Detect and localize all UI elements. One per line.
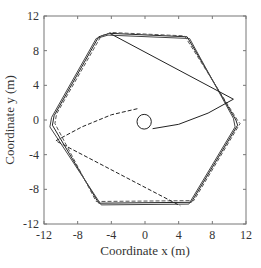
hexagon-path-solid [52,33,237,203]
x-tick-label: -8 [73,228,83,242]
initial-circle [137,114,151,129]
y-tick-label: -12 [23,217,39,231]
x-tick-label: 4 [176,228,182,242]
y-tick-label: -4 [29,148,39,162]
y-tick-label: -8 [29,182,39,196]
y-tick-label: 0 [33,113,39,127]
approach-solid [110,33,234,128]
hexagon-path-offset-2 [55,33,240,202]
approach-dashed [56,109,181,206]
x-tick-label: 8 [209,228,215,242]
x-tick-label: 0 [142,228,148,242]
x-axis-label: Coordinate x (m) [100,243,190,258]
y-tick-label: 4 [33,78,39,92]
y-axis-ticks: -12-8-404812 [23,9,246,231]
x-tick-label: -4 [106,228,116,242]
x-tick-label: 12 [240,228,252,242]
y-axis-label: Coordinate y (m) [2,75,17,165]
y-tick-label: 12 [27,9,39,23]
trajectory-chart: -12-8-404812 -12-8-404812 Coordinate x (… [0,0,261,268]
hexagon-path-offset-1 [50,35,235,205]
plot-frame [44,16,246,224]
y-tick-label: 8 [33,44,39,58]
plot-area [50,33,240,206]
